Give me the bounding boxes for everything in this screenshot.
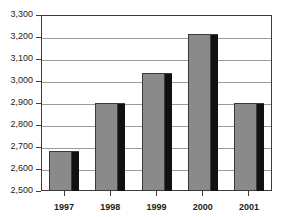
x-tick-label: 2000 — [178, 202, 228, 212]
bar — [142, 73, 172, 191]
bar-body — [234, 103, 257, 191]
bar-body — [142, 73, 165, 191]
y-tick-mark — [36, 147, 41, 148]
y-tick-label: 3,200 — [10, 32, 33, 41]
y-tick-mark — [36, 191, 41, 192]
bar-shadow — [257, 103, 264, 191]
y-tick-mark — [36, 59, 41, 60]
bar-body — [95, 103, 118, 191]
y-tick-label: 2,700 — [10, 142, 33, 151]
y-tick-mark — [36, 125, 41, 126]
x-axis: 19971998199920002001 — [0, 196, 283, 217]
x-tick-label: 1999 — [132, 202, 182, 212]
bar-shadow — [72, 151, 79, 191]
bar — [188, 34, 218, 191]
x-tick-mark — [110, 191, 111, 196]
y-tick-label: 3,000 — [10, 76, 33, 85]
x-tick-mark — [202, 191, 203, 196]
bar — [234, 103, 264, 191]
bar-chart: 3,3003,2003,1003,0002,9002,8002,7002,600… — [0, 0, 283, 217]
bar — [95, 103, 125, 191]
bar-shadow — [165, 73, 172, 191]
y-tick-mark — [36, 15, 41, 16]
y-tick-mark — [36, 37, 41, 38]
x-tick-label: 1997 — [39, 202, 89, 212]
x-tick-label: 1998 — [85, 202, 135, 212]
bars-layer — [41, 15, 272, 191]
bar — [49, 151, 79, 191]
x-tick-mark — [156, 191, 157, 196]
bar-shadow — [211, 34, 218, 191]
y-tick-label: 2,600 — [10, 164, 33, 173]
bar-body — [188, 34, 211, 191]
y-tick-mark — [36, 103, 41, 104]
y-axis: 3,3003,2003,1003,0002,9002,8002,7002,600… — [0, 0, 38, 217]
x-tick-mark — [248, 191, 249, 196]
y-tick-label: 2,500 — [10, 186, 33, 195]
bar-shadow — [118, 103, 125, 191]
y-tick-label: 3,100 — [10, 54, 33, 63]
y-tick-label: 2,900 — [10, 98, 33, 107]
x-tick-mark — [64, 191, 65, 196]
bar-body — [49, 151, 72, 191]
clipped-chart-title — [110, 0, 270, 4]
y-tick-mark — [36, 81, 41, 82]
y-tick-label: 3,300 — [10, 10, 33, 19]
x-tick-label: 2001 — [224, 202, 274, 212]
y-tick-mark — [36, 169, 41, 170]
y-tick-label: 2,800 — [10, 120, 33, 129]
